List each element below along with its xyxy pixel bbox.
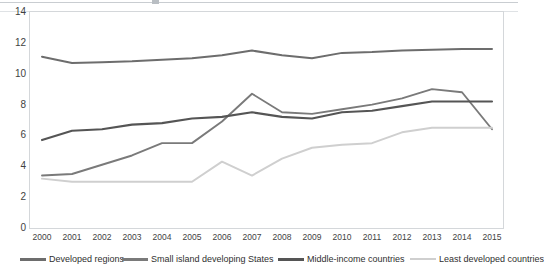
legend-item[interactable]: Least developed countries bbox=[410, 252, 544, 266]
legend-label: Developed regions bbox=[49, 254, 124, 264]
x-tick-label: 2012 bbox=[393, 232, 412, 242]
legend-item[interactable]: Small island developing States bbox=[122, 252, 274, 266]
legend-swatch-icon bbox=[410, 258, 436, 260]
x-tick-label: 2015 bbox=[483, 232, 502, 242]
chart-legend: Developed regionsSmall island developing… bbox=[0, 252, 518, 268]
legend-swatch-icon bbox=[20, 258, 46, 261]
x-tick-label: 2009 bbox=[303, 232, 322, 242]
legend-item[interactable]: Middle-income countries bbox=[278, 252, 405, 266]
legend-swatch-icon bbox=[122, 258, 148, 261]
x-tick-label: 2005 bbox=[183, 232, 202, 242]
x-tick-label: 2010 bbox=[333, 232, 352, 242]
plot-frame bbox=[30, 12, 504, 229]
x-tick-label: 2001 bbox=[63, 232, 82, 242]
x-tick-label: 2004 bbox=[153, 232, 172, 242]
legend-swatch-icon bbox=[278, 258, 304, 261]
x-tick-label: 2008 bbox=[273, 232, 292, 242]
legend-label: Least developed countries bbox=[439, 254, 544, 264]
x-axis-labels: 2000200120022003200420052006200720082009… bbox=[0, 232, 518, 246]
x-tick-label: 2003 bbox=[123, 232, 142, 242]
x-tick-label: 2007 bbox=[243, 232, 262, 242]
legend-item[interactable]: Developed regions bbox=[20, 252, 124, 266]
legend-label: Middle-income countries bbox=[307, 254, 405, 264]
x-tick-label: 2002 bbox=[93, 232, 112, 242]
x-tick-label: 2013 bbox=[423, 232, 442, 242]
legend-label: Small island developing States bbox=[151, 254, 274, 264]
x-tick-label: 2006 bbox=[213, 232, 232, 242]
x-tick-label: 2000 bbox=[33, 232, 52, 242]
x-tick-label: 2011 bbox=[363, 232, 381, 242]
x-tick-label: 2014 bbox=[453, 232, 472, 242]
